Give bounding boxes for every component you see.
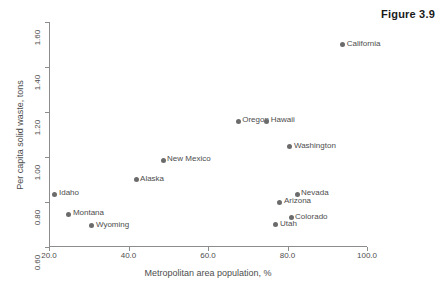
x-axis-tick-label: 80.0 (280, 251, 296, 260)
figure-caption: Figure 3.9 (381, 8, 435, 20)
y-axis-tick-label: 0.80 (34, 210, 42, 226)
data-point-label: New Mexico (167, 155, 211, 163)
x-axis-tick-label: 60.0 (200, 251, 216, 260)
data-point-label: Alaska (140, 175, 164, 183)
y-axis-tick-label: 1.20 (34, 120, 42, 136)
data-point-label: Hawaii (271, 116, 295, 124)
y-axis-title-container: Per capita solid waste, tons (14, 22, 26, 247)
x-axis-tick-label: 20.0 (41, 251, 57, 260)
x-axis-tick-label: 100.0 (357, 251, 377, 260)
y-axis-tick (45, 22, 49, 23)
data-point-marker (161, 158, 166, 163)
data-point-label: Arizona (284, 197, 311, 205)
data-point-label: Colorado (295, 213, 327, 221)
data-point-marker (287, 144, 292, 149)
y-axis-tick (45, 157, 49, 158)
data-point-label: Wyoming (96, 221, 129, 229)
data-point-marker (340, 42, 345, 47)
data-point-label: Washington (294, 142, 336, 150)
data-point-marker (89, 223, 94, 228)
data-point-marker (134, 177, 139, 182)
y-axis-tick-label: 1.00 (34, 165, 42, 181)
x-axis-title: Metropolitan area population, % (49, 268, 367, 278)
y-axis-tick-label: 1.40 (34, 75, 42, 91)
data-point-label: Montana (73, 209, 104, 217)
data-point-marker (66, 212, 71, 217)
y-axis-tick (45, 202, 49, 203)
data-point-label: California (347, 40, 381, 48)
y-axis-tick (45, 67, 49, 68)
plot-area: 0.600.801.001.201.401.60 20.040.060.080.… (49, 22, 367, 247)
y-axis-title: Per capita solid waste, tons (15, 80, 25, 190)
data-point-label: Nevada (301, 189, 329, 197)
data-point-marker (236, 119, 241, 124)
y-axis-line (49, 22, 50, 247)
y-axis-tick (45, 112, 49, 113)
y-axis-tick-label: 1.60 (34, 30, 42, 46)
data-point-marker (273, 222, 278, 227)
data-point-marker (52, 192, 57, 197)
data-point-marker (295, 192, 300, 197)
data-point-marker (289, 215, 294, 220)
data-point-label: Idaho (59, 189, 79, 197)
figure-scatter-plot: Figure 3.9 Per capita solid waste, tons … (0, 0, 443, 299)
x-axis-tick-label: 40.0 (121, 251, 137, 260)
data-point-marker (277, 200, 282, 205)
data-point-marker (264, 119, 269, 124)
